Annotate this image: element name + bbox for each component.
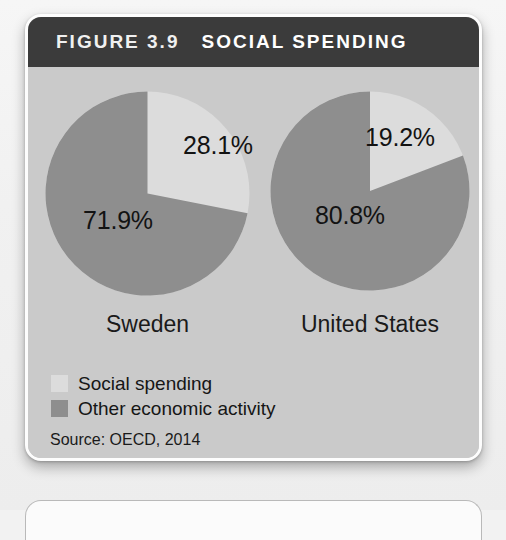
pie-us-value-other: 80.8% xyxy=(315,201,385,230)
legend: Social spending Other economic activity xyxy=(51,371,275,421)
legend-item-other-activity: Other economic activity xyxy=(51,396,275,421)
legend-label-social-spending: Social spending xyxy=(78,373,212,395)
figure-source: Source: OECD, 2014 xyxy=(50,431,200,449)
figure-title: SOCIAL SPENDING xyxy=(201,31,407,53)
figure-body: 28.1% 71.9% Sweden 19.2% 80.8% United St… xyxy=(28,67,479,458)
figure-header: FIGURE 3.9 SOCIAL SPENDING xyxy=(28,17,479,67)
legend-swatch-social-spending xyxy=(51,375,68,392)
next-figure-card xyxy=(25,500,482,540)
pie-us-svg xyxy=(270,91,470,291)
pie-sweden-value-social: 28.1% xyxy=(183,131,253,160)
pie-chart-sweden: 28.1% 71.9% xyxy=(45,91,250,296)
legend-item-social-spending: Social spending xyxy=(51,371,275,396)
pie-us-label: United States xyxy=(265,311,475,338)
figure-number: FIGURE 3.9 xyxy=(56,31,179,53)
figure-card: FIGURE 3.9 SOCIAL SPENDING 28.1% 71.9% S… xyxy=(25,14,482,461)
pie-us-slices xyxy=(270,91,470,291)
pie-sweden-svg xyxy=(45,91,250,296)
pie-sweden-slices xyxy=(45,91,250,296)
pie-chart-united-states: 19.2% 80.8% xyxy=(270,91,470,291)
pie-sweden-label: Sweden xyxy=(45,311,250,338)
pie-us-value-social: 19.2% xyxy=(365,123,435,152)
legend-swatch-other-activity xyxy=(51,400,68,417)
pie-sweden-value-other: 71.9% xyxy=(83,206,153,235)
legend-label-other-activity: Other economic activity xyxy=(78,398,275,420)
